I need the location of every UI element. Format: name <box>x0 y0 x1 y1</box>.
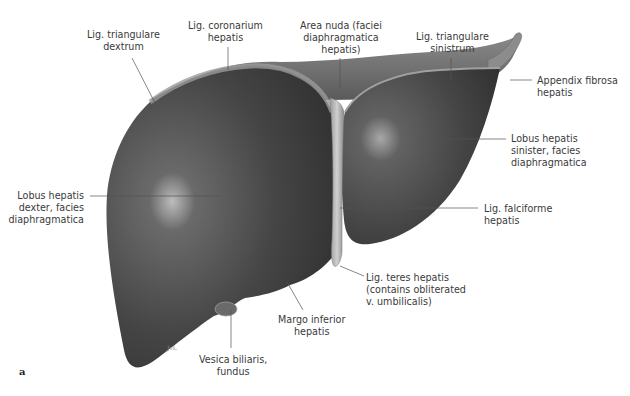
label-lig-triangulare-sinistrum: Lig. triangulare sinistrum <box>416 31 489 55</box>
artist-signature: JvL <box>166 344 177 352</box>
label-lobus-hepatis-dexter: Lobus hepatis dexter, facies diaphragmat… <box>4 190 84 226</box>
label-lig-teres-hepatis: Lig. teres hepatis (contains obliterated… <box>366 272 466 308</box>
label-lig-falciforme-hepatis: Lig. falciforme hepatis <box>484 203 552 227</box>
liver-diagram: JvL Lig. triangulare dextrum Lig. corona… <box>0 0 630 396</box>
gallbladder-fundus-shape <box>215 302 237 316</box>
label-lig-triangulare-dextrum: Lig. triangulare dextrum <box>87 29 160 53</box>
label-lobus-hepatis-sinister: Lobus hepatis sinister, facies diaphragm… <box>511 133 587 169</box>
left-lobe-shape <box>341 68 500 244</box>
label-appendix-fibrosa-hepatis: Appendix fibrosa hepatis <box>537 75 618 99</box>
label-area-nuda: Area nuda (faciei diaphragmatica hepatis… <box>300 20 382 56</box>
label-margo-inferior-hepatis: Margo inferior hepatis <box>278 314 345 338</box>
label-lig-coronarium-hepatis: Lig. coronarium hepatis <box>188 20 263 44</box>
panel-letter: a <box>19 366 25 377</box>
label-vesica-biliaris-fundus: Vesica biliaris, fundus <box>199 354 267 378</box>
